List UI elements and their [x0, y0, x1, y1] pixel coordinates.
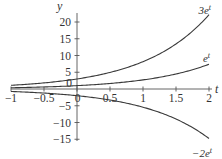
labels: −1−0.500.511.52−15−10−505101520ty3etet−2…: [5, 0, 219, 159]
y-tick-label: −5: [59, 100, 71, 112]
y-tick-label: 20: [60, 16, 72, 28]
x-tick-label: 2: [206, 92, 212, 104]
x-tick-label: −1: [5, 92, 17, 104]
x-tick-label: 0.5: [103, 92, 118, 104]
curve-label-et: et: [203, 51, 211, 64]
curves: [11, 15, 209, 139]
line-chart: −1−0.500.511.52−15−10−505101520ty3etet−2…: [0, 0, 222, 159]
curve-label-3et: 3et: [197, 3, 211, 16]
y-tick-label: 15: [60, 33, 72, 45]
curve-3et: [11, 15, 209, 86]
curve-et: [11, 64, 209, 88]
x-tick-label: 1.5: [169, 92, 184, 104]
y-tick-label: −10: [53, 117, 71, 129]
y-axis-label: y: [56, 0, 63, 13]
y-tick-label: 0: [66, 77, 72, 89]
x-axis-label: t: [215, 82, 219, 96]
y-tick-label: 5: [65, 66, 71, 78]
y-tick-label: −15: [53, 133, 71, 145]
x-tick-label: 0: [75, 92, 81, 104]
x-tick-label: 1: [140, 92, 146, 104]
y-tick-label: 10: [60, 50, 72, 62]
x-tick-label: −0.5: [34, 92, 55, 104]
curve-label-neg2et: −2et: [192, 146, 213, 159]
